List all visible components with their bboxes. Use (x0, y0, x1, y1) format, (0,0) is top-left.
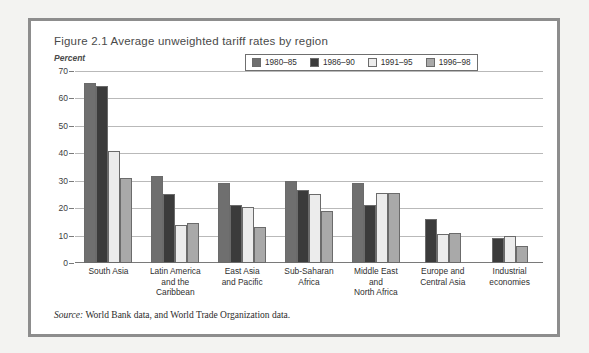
x-axis-label: Latin Americaand theCaribbean (142, 266, 209, 298)
bar (187, 223, 199, 263)
chart-plot: 010203040506070 (75, 71, 543, 263)
bar-group (476, 71, 543, 263)
y-tick-mark (69, 126, 74, 127)
y-tick-mark (69, 263, 74, 264)
bar (504, 236, 516, 263)
x-axis-label: Sub-SaharanAfrica (276, 266, 343, 298)
figure-frame: Figure 2.1 Average unweighted tariff rat… (28, 18, 560, 337)
bar (120, 178, 132, 263)
bar (297, 190, 309, 263)
legend-label: 1986–90 (323, 58, 355, 67)
y-tick-label: 0 (63, 258, 68, 268)
source-note: Source: World Bank data, and World Trade… (54, 310, 290, 320)
bar (151, 176, 163, 263)
figure-title: Figure 2.1 Average unweighted tariff rat… (54, 35, 328, 47)
x-axis-label: East Asiaand Pacific (209, 266, 276, 298)
bar-group (142, 71, 209, 263)
x-axis-label: Europe andCentral Asia (409, 266, 476, 298)
y-tick-label: 50 (59, 121, 68, 131)
bar (321, 211, 333, 263)
legend-swatch-icon (310, 58, 319, 67)
legend-swatch-icon (252, 58, 261, 67)
legend-item: 1996–98 (426, 58, 471, 67)
legend-item: 1991–95 (368, 58, 413, 67)
page-canvas: Figure 2.1 Average unweighted tariff rat… (0, 0, 589, 353)
bar (84, 83, 96, 263)
bar-groups (75, 71, 543, 263)
bar (425, 219, 437, 263)
y-axis-unit-label: Percent (54, 53, 85, 63)
y-tick-label: 60 (59, 93, 68, 103)
legend-swatch-icon (368, 58, 377, 67)
bar-group (276, 71, 343, 263)
bar-group (209, 71, 276, 263)
bar (285, 181, 297, 263)
legend-label: 1996–98 (439, 58, 471, 67)
source-text: World Bank data, and World Trade Organiz… (83, 310, 290, 320)
bar-group (75, 71, 142, 263)
bar (376, 193, 388, 263)
y-tick-label: 40 (59, 148, 68, 158)
bar (449, 233, 461, 263)
x-axis-label: South Asia (75, 266, 142, 298)
y-tick-mark (69, 208, 74, 209)
y-tick-label: 70 (59, 66, 68, 76)
bar (437, 234, 449, 263)
bar (364, 205, 376, 263)
bar (175, 225, 187, 263)
bar (108, 151, 120, 263)
bar (242, 207, 254, 263)
y-tick-label: 30 (59, 176, 68, 186)
legend-label: 1991–95 (381, 58, 413, 67)
legend-item: 1980–85 (252, 58, 297, 67)
legend-item: 1986–90 (310, 58, 355, 67)
bar (352, 183, 364, 263)
bar (492, 238, 504, 264)
legend-label: 1980–85 (265, 58, 297, 67)
y-tick-mark (69, 181, 74, 182)
bar (230, 205, 242, 263)
bar-group (409, 71, 476, 263)
bar (96, 86, 108, 263)
y-tick-mark (69, 236, 74, 237)
x-axis-label: Middle EastandNorth Africa (342, 266, 409, 298)
bar (309, 194, 321, 263)
bar (218, 183, 230, 263)
chart-legend: 1980–851986–901991–951996–98 (245, 54, 478, 71)
y-tick-mark (69, 71, 74, 72)
y-tick-label: 10 (59, 231, 68, 241)
x-axis-labels: South AsiaLatin Americaand theCaribbeanE… (75, 266, 543, 298)
legend-swatch-icon (426, 58, 435, 67)
x-axis-label: Industrialeconomies (476, 266, 543, 298)
y-tick-mark (69, 98, 74, 99)
bar (388, 193, 400, 263)
bar (516, 246, 528, 263)
bar (254, 227, 266, 263)
bar (163, 194, 175, 263)
source-prefix: Source: (54, 310, 83, 320)
y-tick-mark (69, 153, 74, 154)
y-tick-label: 20 (59, 203, 68, 213)
bar-group (342, 71, 409, 263)
